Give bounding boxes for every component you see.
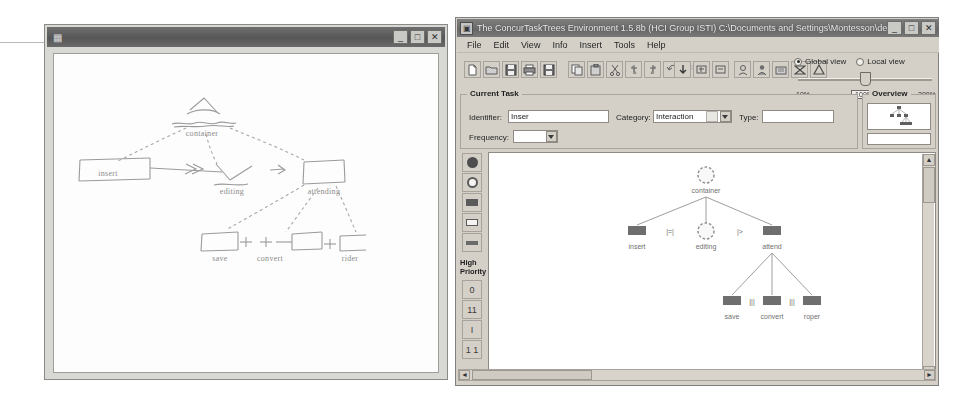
zoom-slider-thumb[interactable] xyxy=(860,72,871,86)
sketch-node-label-insert: insert xyxy=(98,169,118,178)
menu-item-insert[interactable]: Insert xyxy=(573,39,608,51)
menu-item-info[interactable]: Info xyxy=(546,39,573,51)
ctt-app-icon: ▣ xyxy=(460,22,473,35)
identifier-input[interactable]: Inser xyxy=(508,110,609,123)
arrow-down-icon[interactable] xyxy=(674,61,691,78)
sketch-node-label-root: container xyxy=(186,129,218,138)
diagram-horizontal-scrollbar[interactable]: ◄ ► xyxy=(458,369,936,381)
sketch-window-titlebar[interactable]: ▦ _ □ ✕ xyxy=(47,27,445,47)
overview-info-strip xyxy=(867,133,931,145)
radio-global-view-dot xyxy=(794,58,802,66)
minimize-button[interactable]: _ xyxy=(393,30,408,44)
abstract-task-icon[interactable] xyxy=(734,61,751,78)
sketch-canvas[interactable]: container insert editing xyxy=(53,53,439,373)
diagram-node-save-shape[interactable] xyxy=(723,296,741,305)
high-priority-line1: High xyxy=(460,258,477,267)
sketch-node-label-editing: editing xyxy=(220,187,244,196)
identifier-label: Identifier: xyxy=(469,113,502,122)
new-document-icon[interactable] xyxy=(464,61,481,78)
type-label: Type: xyxy=(739,113,759,122)
copy-icon[interactable] xyxy=(568,61,585,78)
diagram-operator-0: |=| xyxy=(666,228,674,236)
screenshot-root: ▦ _ □ ✕ container xyxy=(0,0,959,403)
sketch-window-controls: _ □ ✕ xyxy=(393,30,442,44)
horizontal-scroll-thumb[interactable] xyxy=(472,370,592,380)
print-icon[interactable] xyxy=(521,61,538,78)
close-button[interactable]: ✕ xyxy=(921,21,936,35)
task-tree-diagram: container insert |=| editing |> attend xyxy=(489,153,923,365)
diagram-node-label-root: container xyxy=(692,187,721,194)
priority-1-glyph: 0 xyxy=(469,285,474,295)
menu-item-edit[interactable]: Edit xyxy=(488,39,516,51)
menu-item-view[interactable]: View xyxy=(515,39,546,51)
radio-local-view[interactable]: Local view xyxy=(856,57,904,66)
user-task-icon[interactable] xyxy=(753,61,770,78)
application-task-icon[interactable] xyxy=(772,61,789,78)
scroll-up-button[interactable]: ▲ xyxy=(923,154,935,166)
close-button[interactable]: ✕ xyxy=(427,30,442,44)
open-circle-icon[interactable] xyxy=(462,173,482,192)
minimize-button[interactable]: _ xyxy=(887,21,902,35)
radio-global-view[interactable]: Global view xyxy=(794,57,846,66)
diagram-canvas[interactable]: container insert |=| editing |> attend xyxy=(489,153,923,365)
cut-icon[interactable] xyxy=(606,61,623,78)
sketch-window: ▦ _ □ ✕ container xyxy=(44,24,448,380)
vertical-scroll-thumb[interactable] xyxy=(923,167,935,203)
frequency-combobox[interactable] xyxy=(513,130,558,143)
interaction-task-icon xyxy=(706,111,718,122)
chevron-down-icon[interactable] xyxy=(546,131,557,142)
radio-local-view-label: Local view xyxy=(867,57,904,66)
view-mode-radios: Global view Local view xyxy=(794,57,905,66)
priority-4-glyph: 1 1 xyxy=(466,345,479,355)
app-icon: ▦ xyxy=(52,32,63,43)
category-combobox[interactable]: Interaction xyxy=(653,110,732,123)
maximize-button[interactable]: □ xyxy=(410,30,425,44)
filled-circle-icon[interactable] xyxy=(462,153,482,172)
paste-icon[interactable] xyxy=(587,61,604,78)
expand-icon[interactable] xyxy=(693,61,710,78)
overview-thumbnail[interactable] xyxy=(867,103,931,130)
open-rect-icon[interactable] xyxy=(462,213,482,232)
priority-3-icon[interactable]: I xyxy=(462,320,482,339)
filled-rect-icon[interactable] xyxy=(462,193,482,212)
diagram-node-insert-shape[interactable] xyxy=(628,226,646,235)
type-input[interactable] xyxy=(762,110,834,123)
diagram-viewport[interactable]: container insert |=| editing |> attend xyxy=(488,152,936,378)
bar-icon[interactable] xyxy=(462,233,482,252)
menu-item-help[interactable]: Help xyxy=(641,39,672,51)
insert-icon[interactable] xyxy=(644,61,661,78)
toolbar-group-structure xyxy=(674,61,729,78)
diagram-node-root-shape[interactable] xyxy=(698,167,714,183)
diagram-node-label-roper: roper xyxy=(804,313,821,321)
priority-1-icon[interactable]: 0 xyxy=(462,280,482,299)
collapse-icon[interactable] xyxy=(712,61,729,78)
save-icon[interactable] xyxy=(502,61,519,78)
priority-4-icon[interactable]: 1 1 xyxy=(462,340,482,359)
zoom-slider[interactable]: 10% 100% 200% xyxy=(796,70,936,90)
task-tree-thumbnail-icon xyxy=(868,104,930,129)
delete-icon[interactable] xyxy=(625,61,642,78)
scroll-right-button[interactable]: ► xyxy=(924,370,935,380)
ctt-titlebar[interactable]: ▣ The ConcurTaskTrees Environment 1.5.8b… xyxy=(457,19,939,37)
page-divider xyxy=(0,42,44,43)
open-folder-icon[interactable] xyxy=(483,61,500,78)
save-as-icon[interactable] xyxy=(540,61,557,78)
scroll-left-button[interactable]: ◄ xyxy=(459,370,470,380)
diagram-node-convert-shape[interactable] xyxy=(763,296,781,305)
sketch-node-label-rider: rider xyxy=(342,254,359,263)
chevron-down-icon[interactable] xyxy=(720,111,731,122)
diagram-node-label-attend: attend xyxy=(762,243,782,250)
diagram-node-label-insert: insert xyxy=(628,243,645,250)
toolbar: Global view Local view 10% 100% 200% xyxy=(458,55,938,91)
diagram-node-attend-shape[interactable] xyxy=(763,226,781,235)
hand-drawn-task-tree: container insert editing xyxy=(54,54,439,373)
priority-2-icon[interactable]: 11 xyxy=(462,300,482,319)
diagram-node-editing-shape[interactable] xyxy=(698,223,714,239)
menu-item-tools[interactable]: Tools xyxy=(608,39,641,51)
overview-panel: Overview xyxy=(862,94,936,149)
high-priority-label: High Priority xyxy=(460,258,486,276)
diagram-vertical-scrollbar[interactable]: ▲ ▼ xyxy=(922,154,934,378)
maximize-button[interactable]: □ xyxy=(904,21,919,35)
menu-item-file[interactable]: File xyxy=(461,39,488,51)
diagram-node-roper-shape[interactable] xyxy=(803,296,821,305)
